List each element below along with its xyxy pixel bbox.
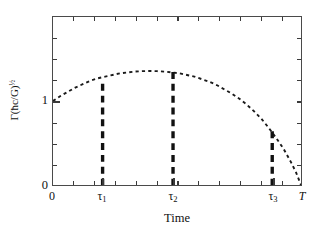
x-tick-tau-index: 2 [173, 194, 177, 204]
x-top-minor-tick-4 [136, 17, 137, 21]
y-axis-title-open-paren: ( [8, 111, 20, 115]
y-axis-title-c: c [8, 100, 20, 105]
x-minor-tick-3 [115, 181, 116, 185]
x-top-minor-tick-9 [240, 17, 241, 21]
y-axis-title-symbol: Γ [8, 114, 20, 120]
x-top-minor-tick-1 [73, 17, 74, 21]
x-top-minor-tick-2 [94, 17, 95, 21]
x-minor-tick-8 [219, 181, 220, 185]
figure-canvas: Γ(ħc/G)½ 1 0 0τ1τ2τ3T Time [0, 0, 319, 244]
x-tick-tau-index: 3 [273, 194, 277, 204]
x-minor-tick-7 [198, 181, 199, 185]
y-minor-tick-6 [53, 59, 57, 60]
vertical-marker-lines [103, 72, 273, 185]
y-axis-title: Γ(ħc/G)½ [8, 52, 20, 148]
y-right-minor-tick-7 [297, 38, 301, 39]
x-minor-tick-5 [157, 181, 158, 185]
y-right-minor-tick-6 [297, 59, 301, 60]
y-minor-tick-5 [53, 80, 57, 81]
y-right-minor-tick-1 [297, 165, 301, 166]
y-minor-tick-2 [53, 144, 57, 145]
x-top-minor-tick-3 [115, 17, 116, 21]
x-major-tick-2 [173, 178, 175, 185]
x-tick-label-1: τ1 [82, 190, 122, 206]
y-minor-tick-7 [53, 38, 57, 39]
x-top-minor-tick-10 [261, 17, 262, 21]
y-axis-title-hbar: ħ [8, 105, 20, 111]
x-top-minor-tick-5 [157, 17, 158, 21]
y-axis-title-g: G [8, 89, 20, 97]
x-minor-tick-2 [94, 181, 95, 185]
x-top-minor-tick-6 [177, 17, 178, 21]
y-right-minor-tick-5 [297, 80, 301, 81]
x-top-minor-tick-8 [219, 17, 220, 21]
x-minor-tick-10 [261, 181, 262, 185]
y-axis-title-slash: / [8, 97, 20, 100]
y-tick-label-1: 1 [30, 94, 48, 107]
x-minor-tick-4 [136, 181, 137, 185]
data-curve-layer [53, 17, 301, 185]
y-minor-tick-1 [53, 165, 57, 166]
y-axis-title-exponent: ½ [8, 80, 17, 86]
y-axis-title-close-paren: ) [8, 85, 20, 89]
x-major-tick-3 [273, 178, 275, 185]
x-top-minor-tick-11 [282, 17, 283, 21]
x-tick-tau-index: 1 [102, 194, 106, 204]
x-top-minor-tick-7 [198, 17, 199, 21]
x-tick-label-0: 0 [32, 190, 72, 203]
x-tick-label-4: T [282, 190, 319, 203]
x-minor-tick-1 [73, 181, 74, 185]
y-major-tick-1 [53, 101, 60, 103]
x-tick-label-2: τ2 [153, 190, 193, 206]
y-right-minor-tick-3 [297, 123, 301, 124]
plot-frame [52, 16, 302, 186]
plot-area [53, 17, 301, 185]
y-minor-tick-3 [53, 123, 57, 124]
x-major-tick-1 [102, 178, 104, 185]
x-minor-tick-6 [177, 181, 178, 185]
x-axis-title: Time [52, 211, 302, 226]
x-minor-tick-9 [240, 181, 241, 185]
decay-rate-curve [53, 71, 301, 185]
y-right-minor-tick-2 [297, 144, 301, 145]
x-minor-tick-11 [282, 181, 283, 185]
y-right-minor-tick-1 [297, 101, 301, 102]
